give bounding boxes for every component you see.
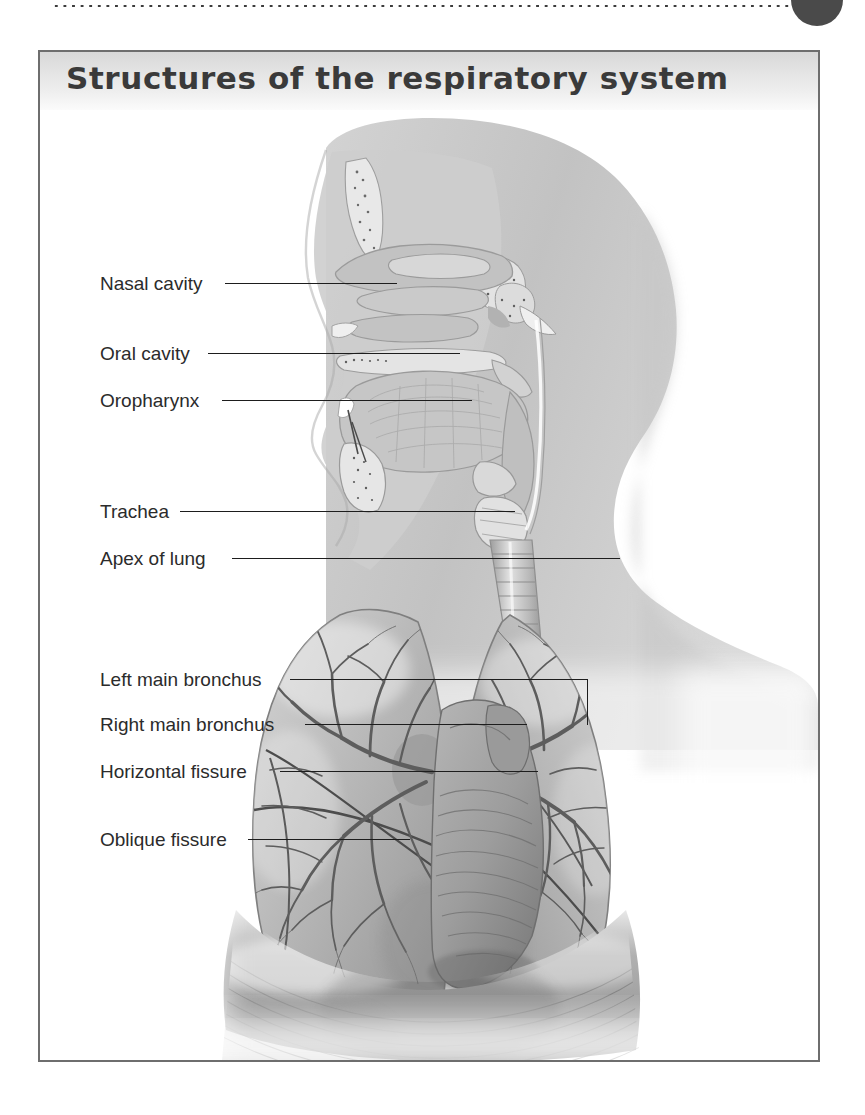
- leader-horizontal-fissure: [280, 771, 538, 772]
- page-number-circle: [791, 0, 843, 26]
- leader-apex-of-lung: [232, 558, 620, 559]
- label-horizontal-fissure: Horizontal fissure: [100, 762, 247, 781]
- leader-oral-cavity: [208, 353, 460, 354]
- respiratory-system-illustration: [40, 110, 818, 1060]
- leader-oblique-fissure: [248, 839, 410, 840]
- label-apex-of-lung: Apex of lung: [100, 549, 206, 568]
- label-oropharynx: Oropharynx: [100, 391, 199, 410]
- leader-trachea: [180, 511, 515, 512]
- leader-nasal-cavity: [225, 283, 397, 284]
- label-nasal-cavity: Nasal cavity: [100, 274, 202, 293]
- label-trachea: Trachea: [100, 502, 169, 521]
- leader-left-main-bronchus: [290, 679, 588, 680]
- figure-frame: Structures of the respiratory system: [38, 50, 820, 1062]
- leader-right-main-bronchus: [305, 724, 527, 725]
- label-oblique-fissure: Oblique fissure: [100, 830, 227, 849]
- figure-title: Structures of the respiratory system: [66, 60, 729, 96]
- label-left-main-bronchus: Left main bronchus: [100, 670, 262, 689]
- label-right-main-bronchus: Right main bronchus: [100, 715, 274, 734]
- label-oral-cavity: Oral cavity: [100, 344, 190, 363]
- leader-left-main-bronchus-drop: [587, 679, 588, 725]
- page-top-dotted-rule: [52, 4, 792, 8]
- leader-oropharynx: [222, 400, 472, 401]
